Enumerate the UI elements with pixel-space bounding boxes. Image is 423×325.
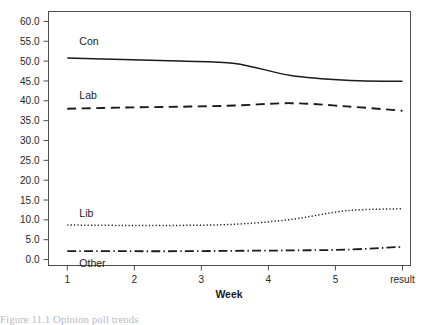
y-tick-label: 10.0 xyxy=(20,214,40,225)
y-tick-label: 45.0 xyxy=(20,76,40,87)
x-tick-label: 2 xyxy=(132,274,138,285)
y-tick-label: 35.0 xyxy=(20,115,40,126)
figure-caption-clipped: Figure 11.1 Opinion poll trends xyxy=(0,313,423,325)
y-tick-label: 5.0 xyxy=(26,234,40,245)
x-tick-label: 4 xyxy=(266,274,272,285)
figure-caption-text: Figure 11.1 Opinion poll trends xyxy=(0,313,423,325)
y-tick-label: 50.0 xyxy=(20,56,40,67)
y-tick-label: 55.0 xyxy=(20,36,40,47)
x-tick-label: 1 xyxy=(64,274,70,285)
y-tick-label: 40.0 xyxy=(20,95,40,106)
x-tick-label: result xyxy=(390,274,415,285)
x-tick-label: 3 xyxy=(199,274,205,285)
y-tick-label: 20.0 xyxy=(20,175,40,186)
x-axis-title: Week xyxy=(215,288,242,300)
x-tick-label: 5 xyxy=(333,274,339,285)
y-tick-label: 60.0 xyxy=(20,16,40,27)
series-label-con: Con xyxy=(79,35,98,47)
y-tick-label: 25.0 xyxy=(20,155,40,166)
series-label-lab: Lab xyxy=(79,89,97,101)
series-label-other: Other xyxy=(79,257,106,269)
y-tick-label: 30.0 xyxy=(20,135,40,146)
series-label-lib: Lib xyxy=(79,207,93,219)
y-tick-label: 15.0 xyxy=(20,195,40,206)
y-tick-label: 0.0 xyxy=(26,254,40,265)
